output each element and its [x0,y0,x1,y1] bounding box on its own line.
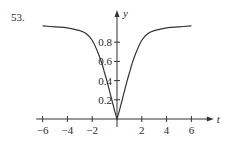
x-tick-label: 2 [139,124,145,136]
x-tick-label: −6 [37,124,49,136]
chart: 53. ty −6−4−22460.20.40.60.8 [0,0,239,146]
x-tick-label: 6 [189,124,195,136]
y-tick-label: 0.6 [98,55,112,67]
ticks: −6−4−22460.20.40.60.8 [37,36,195,136]
x-tick-label: 4 [164,124,170,136]
x-axis-label: t [217,113,221,125]
x-tick-label: −4 [62,124,74,136]
y-axis-label: y [122,7,128,19]
x-axis-arrow-icon [207,117,214,122]
y-axis-arrow-icon [115,10,120,17]
y-tick-label: 0.2 [98,94,112,106]
axes: ty [36,7,221,127]
problem-number: 53. [11,11,25,23]
x-tick-label: −2 [86,124,98,136]
y-tick-label: 0.8 [98,36,112,48]
